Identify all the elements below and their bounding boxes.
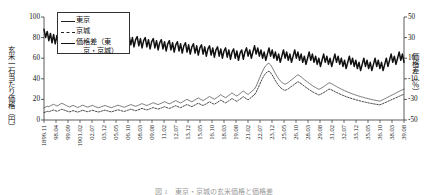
legend-item-tokyo: 東京	[61, 16, 126, 27]
chart-figure: 玄米一石当たり価格（円） 価格差（％） 020406080100 -50-30-…	[0, 0, 428, 195]
legend-label-keijo: 京城	[76, 27, 90, 36]
legend-item-keijo: 京城	[61, 27, 126, 38]
legend-label-tokyo: 東京	[76, 16, 90, 25]
legend-label-price-difference: 価格差（東 京・京城）	[76, 38, 118, 56]
legend-key-thin-solid-icon	[61, 16, 76, 26]
series-line	[44, 63, 404, 108]
legend-label-pd-line2: 京・京城）	[76, 47, 118, 56]
legend-item-price-difference: 価格差（東 京・京城）	[61, 38, 126, 57]
series-line	[44, 71, 404, 112]
figure-caption: 図 1 東京・京城の玄米価格と価格差	[0, 186, 428, 195]
legend: 東京 京城 価格差（東 京・京城）	[57, 12, 130, 54]
legend-label-pd-line1: 価格差（東	[76, 38, 111, 46]
legend-key-dashed-icon	[61, 27, 76, 37]
legend-key-thick-solid-icon	[61, 38, 76, 48]
